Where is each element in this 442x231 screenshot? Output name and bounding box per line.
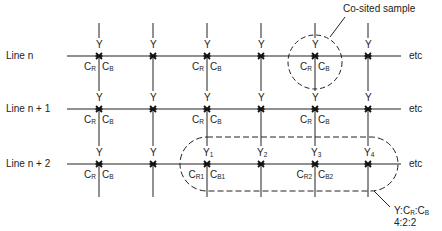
- chroma-r-label: CR1: [188, 170, 204, 181]
- chroma-r-label: CR: [300, 115, 312, 126]
- luma-label: Y: [96, 148, 103, 158]
- luma-label: Y: [96, 40, 103, 50]
- chroma-b-label: CB: [318, 62, 330, 73]
- chroma-r-label: CR: [192, 62, 204, 73]
- luma-label: Y3: [311, 148, 321, 159]
- chroma-b-label: CB1: [210, 170, 225, 181]
- ratio-value: 4:2:2: [394, 218, 416, 228]
- chroma-r-label: CR: [84, 115, 96, 126]
- line-n-plus-1-label: Line n + 1: [6, 104, 50, 114]
- etc-label-line-n: etc: [409, 51, 422, 61]
- chroma-r-label: CR: [192, 115, 204, 126]
- luma-label: Y: [204, 93, 211, 103]
- cosited-sample-label: Co-sited sample: [343, 4, 415, 14]
- luma-label: Y1: [203, 148, 213, 159]
- sample-points: [96, 53, 372, 167]
- luma-label: Y: [204, 40, 211, 50]
- luma-label: Y4: [364, 148, 374, 159]
- chroma-r-label: CR: [84, 170, 96, 181]
- line-n-plus-2-label: Line n + 2: [6, 159, 50, 169]
- luma-label: Y: [365, 93, 372, 103]
- luma-label: Y: [312, 40, 319, 50]
- luma-label: Y: [258, 93, 265, 103]
- luma-label: Y: [96, 93, 103, 103]
- chroma-r-label: CR: [84, 62, 96, 73]
- chroma-b-label: CB: [102, 170, 114, 181]
- luma-label: Y: [150, 148, 157, 158]
- scan-lines: [67, 56, 401, 164]
- cosited-leader-line: [330, 17, 345, 37]
- chroma-b-label: CB: [210, 115, 222, 126]
- chroma-b-label: CB: [318, 115, 330, 126]
- luma-label: Y: [150, 40, 157, 50]
- luma-label: Y: [258, 40, 265, 50]
- luma-label: Y: [150, 93, 157, 103]
- chroma-b-label: CB: [210, 62, 222, 73]
- chroma-r-label: CR: [300, 62, 312, 73]
- chroma-b-label: CB: [102, 62, 114, 73]
- chroma-b-label: CB: [102, 115, 114, 126]
- etc-label-line-n-plus-2: etc: [409, 159, 422, 169]
- chroma-b-label: CB2: [318, 170, 333, 181]
- luma-label: Y2: [257, 148, 267, 159]
- etc-label-line-n-plus-1: etc: [409, 104, 422, 114]
- line-n-label: Line n: [6, 51, 33, 61]
- chroma-r-label: CR2: [296, 170, 312, 181]
- ratio-leader-line: [374, 191, 390, 207]
- luma-label: Y: [312, 93, 319, 103]
- ratio-label: Y:CR:CB: [394, 206, 429, 217]
- luma-label: Y: [365, 40, 372, 50]
